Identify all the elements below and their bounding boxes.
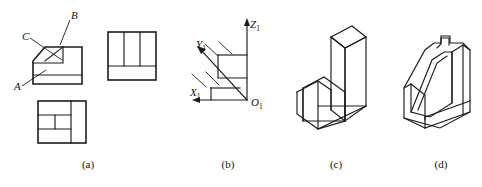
axis-box-vertical-face [218, 55, 247, 78]
caption-a: (a) [68, 158, 108, 170]
leader-line-b [60, 20, 70, 45]
axis-y1-line [201, 50, 247, 100]
caption-d: (d) [421, 158, 461, 170]
panel-a-top-view [38, 101, 86, 143]
solid-c-base-top-face [303, 77, 345, 121]
solid-c-wall-front-face [331, 37, 345, 121]
axis-label-y1: Y1 [196, 38, 206, 53]
top-view-step-upper [38, 101, 71, 115]
solid-c-wall-top-face [331, 26, 366, 48]
axis-hatch-lower-2 [206, 72, 219, 85]
top-view-outline [38, 101, 86, 143]
solid-d-chamfer-face [411, 52, 452, 117]
axis-hatch-upper-2 [219, 42, 232, 54]
leader-line-c [30, 38, 62, 60]
surface-label-c: C [22, 30, 29, 42]
axis-hatch-upper-1 [205, 44, 218, 56]
technical-figure: A B C Z1 X1 Y1 O1 (a) (b) (c) (d) [0, 0, 482, 187]
solid-d-right-top-edge [452, 45, 470, 52]
panel-a-side-view [108, 32, 156, 80]
surface-label-a: A [14, 80, 21, 92]
surface-label-b: B [71, 9, 78, 21]
front-view-outline [33, 47, 82, 84]
solid-c-wall-right-face [345, 37, 366, 121]
side-view-outline [108, 32, 156, 80]
panel-c-solid [297, 26, 366, 129]
caption-c: (c) [316, 158, 356, 170]
solid-d-silhouette [404, 36, 470, 128]
axis-label-x1: X1 [190, 86, 200, 101]
caption-b: (b) [208, 158, 248, 170]
solid-c-base-top-left-edge [297, 81, 331, 92]
panel-b-axes [192, 18, 250, 103]
axis-label-z1: Z1 [250, 18, 260, 33]
axis-label-origin-o1: O1 [251, 96, 263, 111]
panel-a-front-view [33, 47, 82, 84]
panel-d-solid [404, 36, 470, 128]
